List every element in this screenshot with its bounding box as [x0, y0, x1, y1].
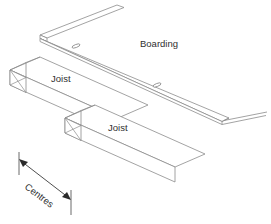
- joist-lower-label: Joist: [108, 122, 128, 133]
- fixing-head-upper-icon: [72, 43, 81, 49]
- joist-lower-group: [65, 105, 205, 182]
- boarding-back-plank-top-face: [40, 5, 124, 38]
- joist-upper-label: Joist: [51, 73, 71, 84]
- isometric-joist-diagram: Boarding Joist Joist Centres: [0, 0, 271, 224]
- boarding-label: Boarding: [140, 38, 178, 49]
- centres-label: Centres: [23, 181, 56, 210]
- fixing-head-lower-icon: [153, 82, 162, 88]
- diagram-canvas: Boarding Joist Joist Centres: [0, 0, 271, 224]
